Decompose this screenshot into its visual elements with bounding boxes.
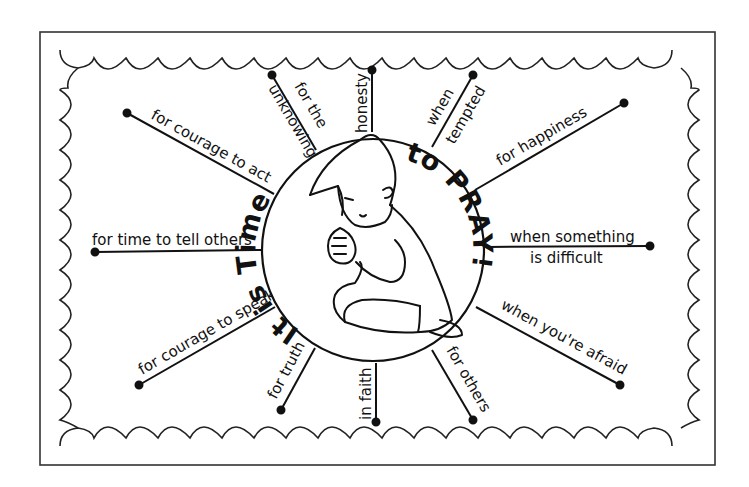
label-honesty: honesty	[353, 73, 371, 133]
label-time-to-tell: for time to tell others	[92, 231, 252, 249]
label-difficult-2: is difficult	[530, 249, 603, 267]
prayer-poster: for courage to act for the unknowing hon…	[0, 0, 749, 487]
label-difficult-1: when something	[510, 228, 635, 246]
label-faith: in faith	[357, 368, 375, 420]
